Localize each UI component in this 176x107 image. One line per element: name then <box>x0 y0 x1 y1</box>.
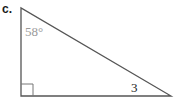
angle-label: 58° <box>25 24 43 39</box>
side-label: 3 <box>131 80 138 95</box>
triangle <box>21 8 171 96</box>
right-triangle-diagram: 58° 3 <box>0 0 176 107</box>
right-angle-marker-icon <box>21 84 33 96</box>
